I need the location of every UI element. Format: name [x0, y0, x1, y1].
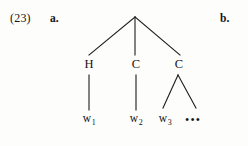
terminal-w1-base: w [83, 112, 91, 124]
tree-node-c1: C [127, 57, 145, 72]
terminal-w1: w1 [77, 112, 101, 124]
tree-edge-root-h [89, 17, 135, 55]
figure-canvas: (23) a. b. H C C w1 w2 w3 ••• [0, 0, 248, 146]
syntax-tree-edges [0, 0, 248, 146]
terminal-w3-subscript: 3 [168, 118, 172, 127]
tree-edge-root-c2 [135, 17, 180, 55]
terminal-w2-subscript: 2 [139, 118, 143, 127]
terminal-w3-base: w [159, 112, 167, 124]
ellipsis-marker: ••• [185, 113, 201, 128]
tree-edge-c2-ellipsis [178, 75, 196, 108]
terminal-w2: w2 [124, 112, 148, 124]
tree-node-c2: C [170, 57, 188, 72]
sub-example-label-a: a. [50, 12, 59, 24]
example-number: (23) [10, 11, 31, 26]
terminal-w3: w3 [153, 112, 177, 124]
terminal-w2-base: w [130, 112, 138, 124]
terminal-w1-subscript: 1 [92, 118, 96, 127]
tree-edge-c2-w3 [163, 75, 178, 108]
tree-node-h: H [80, 57, 98, 72]
sub-example-label-b: b. [220, 12, 229, 24]
